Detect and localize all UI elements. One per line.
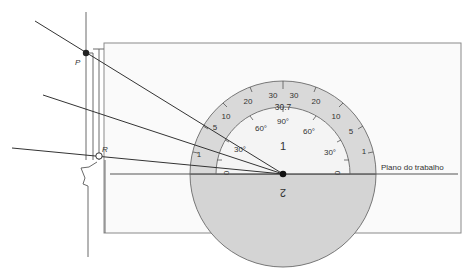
protractor-center-point <box>280 171 287 178</box>
inner-label: 0 <box>222 171 231 176</box>
point-p-label: P <box>75 58 81 67</box>
region-1-label: 1 <box>280 140 286 152</box>
center-reading: 30.7 <box>275 102 292 112</box>
outer-label: 10 <box>222 112 231 121</box>
outer-label: 10 <box>332 112 341 121</box>
outer-label: 20 <box>244 97 253 106</box>
point-r-label: R <box>102 145 108 154</box>
point-p-marker <box>83 50 89 56</box>
outer-label: 1 <box>197 150 202 159</box>
outer-label: 30 <box>269 91 278 100</box>
region-2-label: 2 <box>280 187 286 199</box>
inner-label: 60° <box>303 127 315 136</box>
outer-label: 20 <box>312 97 321 106</box>
inner-label: 30° <box>324 148 336 157</box>
outer-label: 1 <box>362 147 367 156</box>
outer-label: 30 <box>290 91 299 100</box>
outer-label: 5 <box>349 127 354 136</box>
inner-label: 60° <box>255 124 267 133</box>
left-structure <box>81 12 105 257</box>
work-plane-label: Plano do trabalho <box>381 163 444 172</box>
inner-label: 90° <box>277 117 289 126</box>
protractor-diagram: 1 5 10 20 30 30 20 10 5 1 30.7 0 30° 60°… <box>0 0 476 269</box>
